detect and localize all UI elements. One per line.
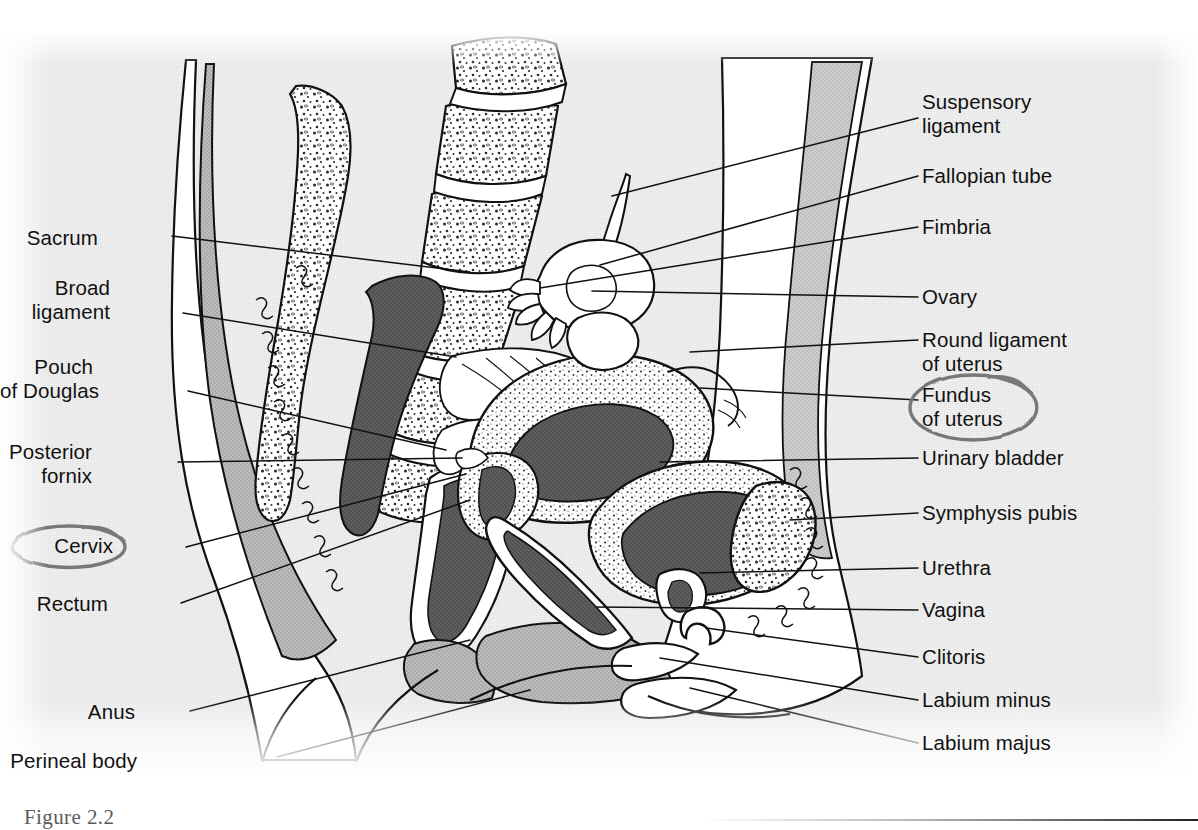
label-line: fornix bbox=[0, 464, 92, 488]
label-fundus-of-uterus: Fundusof uterus bbox=[922, 383, 1003, 430]
label-line: Posterior bbox=[0, 440, 92, 464]
label-clitoris: Clitoris bbox=[922, 645, 985, 669]
label-broad-ligament: Broadligament bbox=[0, 276, 110, 323]
label-line: ligament bbox=[922, 114, 1031, 138]
label-line: Perineal body bbox=[0, 749, 137, 773]
label-line: Urinary bladder bbox=[922, 446, 1064, 470]
label-line: Round ligament bbox=[922, 328, 1067, 352]
label-line: Pouch bbox=[0, 355, 93, 379]
label-line: of uterus bbox=[922, 352, 1067, 376]
label-line: Rectum bbox=[0, 592, 108, 616]
label-fimbria: Fimbria bbox=[922, 215, 991, 239]
label-fallopian-tube: Fallopian tube bbox=[922, 164, 1052, 188]
label-line: Symphysis pubis bbox=[922, 501, 1077, 525]
label-line: Labium minus bbox=[922, 688, 1051, 712]
label-line: Vagina bbox=[922, 598, 985, 622]
label-line: Sacrum bbox=[0, 226, 98, 250]
label-line: Anus bbox=[0, 700, 135, 724]
ovary bbox=[567, 313, 638, 370]
label-line: Suspensory bbox=[922, 90, 1031, 114]
label-posterior-fornix: Posteriorfornix bbox=[0, 440, 92, 487]
label-line: Fimbria bbox=[922, 215, 991, 239]
sacrum-bone bbox=[256, 86, 351, 521]
label-rectum: Rectum bbox=[0, 592, 108, 616]
fallopian-tube-lumen bbox=[566, 265, 616, 311]
scan-edge-fade-left bbox=[0, 30, 46, 778]
label-line: Fallopian tube bbox=[922, 164, 1052, 188]
label-line: of Douglas bbox=[0, 379, 93, 403]
page-bottom-rule bbox=[700, 819, 1198, 821]
label-line: Urethra bbox=[922, 556, 991, 580]
label-cervix: Cervix bbox=[0, 534, 113, 558]
label-pouch-of-douglas: Pouchof Douglas bbox=[0, 355, 93, 402]
label-labium-majus: Labium majus bbox=[922, 731, 1051, 755]
label-ovary: Ovary bbox=[922, 285, 977, 309]
label-line: Clitoris bbox=[922, 645, 985, 669]
label-line: Labium majus bbox=[922, 731, 1051, 755]
label-round-ligament: Round ligamentof uterus bbox=[922, 328, 1067, 375]
label-urethra: Urethra bbox=[922, 556, 991, 580]
scan-edge-fade-top bbox=[0, 30, 1198, 64]
label-anus: Anus bbox=[0, 700, 135, 724]
label-line: Fundus bbox=[922, 383, 1003, 407]
label-suspensory-ligament: Suspensoryligament bbox=[922, 90, 1031, 137]
scan-edge-fade-right bbox=[1158, 30, 1198, 778]
label-labium-minus: Labium minus bbox=[922, 688, 1051, 712]
label-perineal-body: Perineal body bbox=[0, 749, 137, 773]
label-symphysis-pubis: Symphysis pubis bbox=[922, 501, 1077, 525]
label-sacrum: Sacrum bbox=[0, 226, 98, 250]
label-line: Ovary bbox=[922, 285, 977, 309]
body-outline-group bbox=[172, 37, 872, 762]
label-line: ligament bbox=[0, 300, 110, 324]
label-line: Cervix bbox=[0, 534, 113, 558]
label-line: of uterus bbox=[922, 407, 1003, 431]
label-line: Broad bbox=[0, 276, 110, 300]
label-urinary-bladder: Urinary bladder bbox=[922, 446, 1064, 470]
figure-caption: Figure 2.2 bbox=[24, 805, 114, 830]
label-vagina: Vagina bbox=[922, 598, 985, 622]
